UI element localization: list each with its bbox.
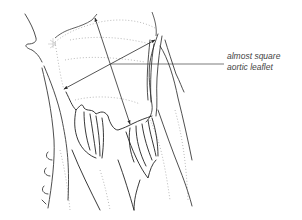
stipple-burst xyxy=(48,38,56,48)
left-contour xyxy=(25,14,69,208)
leaflet-height-arrow xyxy=(95,18,130,124)
annotation-line-1: almost square xyxy=(227,51,280,62)
annotation-line-2: aortic leaflet xyxy=(227,62,280,73)
annotation-label: almost square aortic leaflet xyxy=(227,51,280,73)
aortic-leaflet-illustration xyxy=(0,0,302,220)
leaflet-edge xyxy=(55,12,156,38)
leaflet-width-arrow xyxy=(64,40,155,89)
leaflet-lower-edge xyxy=(66,92,158,210)
